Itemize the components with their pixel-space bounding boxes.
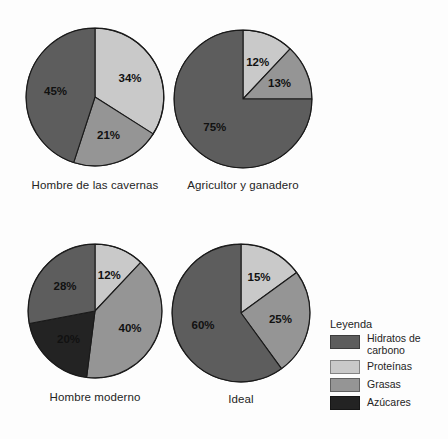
pie-wrap: 12%40%20%28% — [27, 243, 163, 379]
pie-slice-label: 12% — [246, 56, 269, 68]
pie-slice-label: 75% — [203, 121, 226, 133]
pie-svg-hombre-moderno: 12%40%20%28% — [27, 243, 163, 379]
pie-slice-label: 13% — [268, 77, 291, 89]
pie-slice-label: 12% — [98, 269, 121, 281]
legend-swatch-proteinas — [330, 360, 360, 374]
pie-caption-hombre-moderno: Hombre moderno — [50, 391, 141, 403]
pie-slice-label: 60% — [191, 319, 214, 331]
legend-item-proteinas: Proteínas — [330, 359, 446, 374]
pie-chart-hombre-de-las-cavernas: 34%21%45% Hombre de las cavernas — [25, 27, 165, 167]
legend-title: Leyenda — [330, 318, 446, 331]
nutrition-pie-figure: 34%21%45% Hombre de las cavernas 12%13%7… — [0, 0, 448, 439]
legend-swatch-grasas — [330, 378, 360, 392]
pie-slice-label: 20% — [57, 333, 80, 345]
pie-slice-label: 40% — [119, 322, 142, 334]
pie-slice-label: 45% — [44, 85, 67, 97]
legend-item-grasas: Grasas — [330, 377, 446, 392]
legend-label-proteinas: Proteínas — [367, 361, 412, 373]
pie-svg-ideal: 15%25%60% — [171, 243, 311, 383]
legend-label-hidratos-de-carbono: Hidratos de carbono — [367, 333, 446, 356]
pie-slice-label: 21% — [97, 129, 120, 141]
pie-svg-agricultor-y-ganadero: 12%13%75% — [173, 29, 313, 169]
legend-item-azucares: Azúcares — [330, 395, 446, 410]
pie-slice-label: 25% — [269, 313, 292, 325]
pie-caption-agricultor-y-ganadero: Agricultor y ganadero — [187, 179, 298, 191]
pie-caption-ideal: Ideal — [228, 393, 253, 405]
legend: Leyenda Hidratos de carbono Proteínas Gr… — [330, 318, 446, 413]
legend-item-hidratos-de-carbono: Hidratos de carbono — [330, 333, 446, 356]
pie-wrap: 12%13%75% — [173, 29, 313, 169]
pie-slice-label: 34% — [118, 72, 141, 84]
pie-svg-hombre-de-las-cavernas: 34%21%45% — [25, 27, 165, 167]
pie-chart-agricultor-y-ganadero: 12%13%75% Agricultor y ganadero — [173, 29, 313, 169]
pie-slice-label: 15% — [248, 271, 271, 283]
pie-wrap: 34%21%45% — [25, 27, 165, 167]
legend-swatch-hidratos-de-carbono — [330, 335, 360, 349]
legend-label-azucares: Azúcares — [367, 397, 411, 409]
pie-wrap: 15%25%60% — [171, 243, 311, 383]
pie-chart-hombre-moderno: 12%40%20%28% Hombre moderno — [27, 243, 163, 379]
pie-chart-ideal: 15%25%60% Ideal — [171, 243, 311, 383]
legend-swatch-azucares — [330, 396, 360, 410]
pie-caption-hombre-de-las-cavernas: Hombre de las cavernas — [32, 179, 159, 191]
legend-label-grasas: Grasas — [367, 379, 401, 391]
pie-slice-label: 28% — [54, 280, 77, 292]
